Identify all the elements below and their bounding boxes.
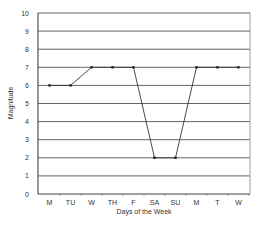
data-point xyxy=(174,157,176,159)
x-tick-label: W xyxy=(235,199,242,206)
y-tick-label: 10 xyxy=(21,10,29,17)
y-tick-label: 7 xyxy=(25,64,29,71)
data-point xyxy=(237,66,239,68)
series-line xyxy=(50,67,239,158)
data-point xyxy=(69,84,71,86)
y-tick-label: 4 xyxy=(25,118,29,125)
data-point xyxy=(195,66,197,68)
x-axis-title: Days of the Week xyxy=(116,208,172,216)
y-tick-label: 9 xyxy=(25,28,29,35)
data-point xyxy=(48,84,50,86)
gridlines xyxy=(38,13,250,176)
data-point xyxy=(216,66,218,68)
y-tick-label: 6 xyxy=(25,82,29,89)
x-tick-label: SU xyxy=(171,199,181,206)
x-tick-label: M xyxy=(194,199,200,206)
x-axis-tick-labels: MTUWTHFSASUMTW xyxy=(47,194,249,206)
x-tick-label: M xyxy=(47,199,53,206)
x-tick-label: TH xyxy=(108,199,117,206)
y-tick-label: 2 xyxy=(25,154,29,161)
x-tick-label: F xyxy=(131,199,135,206)
data-point xyxy=(90,66,92,68)
y-axis-title: Magnitude xyxy=(7,87,15,120)
data-point xyxy=(132,66,134,68)
line-chart: 012345678910 MTUWTHFSASUMTW Days of the … xyxy=(0,0,258,226)
x-tick-label: SA xyxy=(150,199,160,206)
data-point xyxy=(153,157,155,159)
y-tick-label: 0 xyxy=(25,191,29,198)
y-tick-label: 3 xyxy=(25,136,29,143)
x-tick-label: T xyxy=(215,199,220,206)
x-tick-label: W xyxy=(88,199,95,206)
x-tick-label: TU xyxy=(66,199,75,206)
y-axis-tick-labels: 012345678910 xyxy=(21,10,29,198)
y-tick-label: 1 xyxy=(25,172,29,179)
y-tick-label: 8 xyxy=(25,46,29,53)
y-tick-label: 5 xyxy=(25,100,29,107)
data-point xyxy=(111,66,113,68)
